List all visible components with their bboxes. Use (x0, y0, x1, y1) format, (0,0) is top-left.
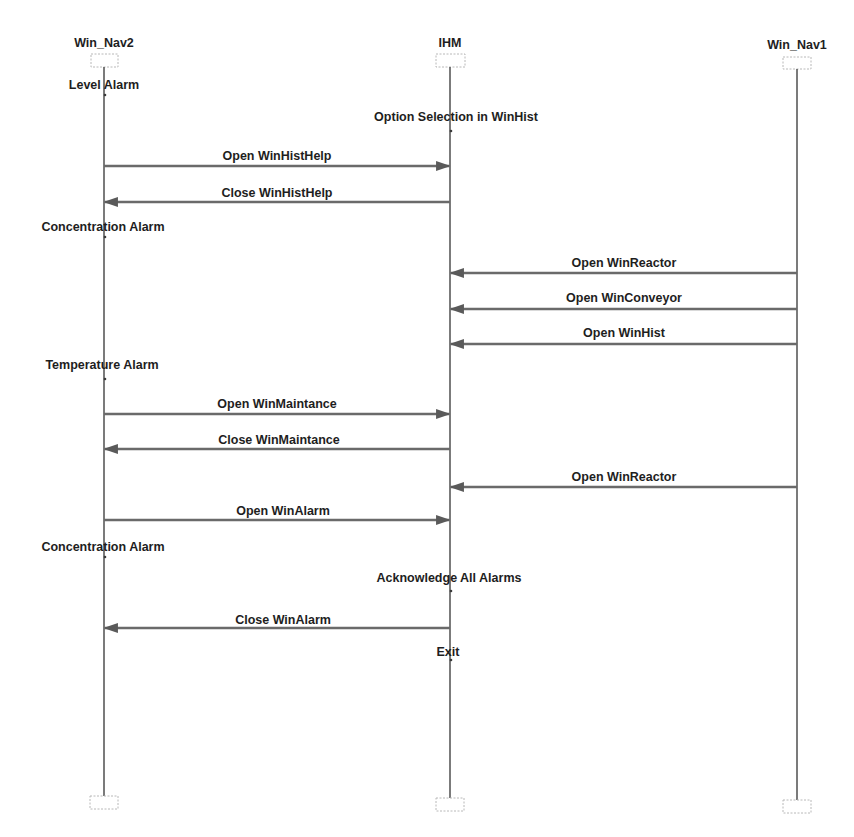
message-label: Open WinHistHelp (223, 149, 332, 163)
message-open-winhist: Open WinHist (451, 326, 797, 344)
message-close-winalarm: Close WinAlarm (105, 613, 450, 628)
lifeline-head-box (783, 57, 811, 69)
lifeline-tail-box (436, 798, 464, 811)
lifeline-tail-box (90, 796, 118, 809)
state-label: Temperature Alarm (45, 358, 158, 372)
state-label: Concentration Alarm (41, 540, 164, 554)
message-open-winreactor-1: Open WinReactor (451, 256, 797, 273)
message-label: Open WinReactor (572, 256, 677, 270)
state-marker (104, 556, 107, 559)
sequence-diagram: Win_Nav2 IHM Win_Nav1 Level Alarm Option… (0, 0, 854, 837)
state-temperature-alarm: Temperature Alarm (45, 358, 158, 380)
lifeline-title-ihm: IHM (439, 36, 462, 50)
message-open-winmaintance: Open WinMaintance (104, 397, 449, 414)
message-label: Open WinConveyor (566, 291, 682, 305)
lifeline-tail-box (783, 800, 811, 813)
state-marker (450, 659, 453, 662)
message-open-winconveyor: Open WinConveyor (451, 291, 797, 309)
lifeline-head-box (91, 54, 118, 67)
lifeline-head-box (436, 54, 465, 67)
lifeline-title-win-nav2: Win_Nav2 (74, 36, 134, 50)
message-label: Close WinHistHelp (221, 186, 332, 200)
lifeline-title-win-nav1: Win_Nav1 (767, 38, 827, 52)
state-label: Acknowledge All Alarms (377, 571, 522, 585)
message-label: Open WinMaintance (217, 397, 336, 411)
lifeline-ihm: IHM (436, 36, 465, 811)
state-marker (450, 590, 453, 593)
message-open-winalarm: Open WinAlarm (104, 504, 449, 520)
message-label: Close WinAlarm (235, 613, 331, 627)
state-marker (104, 94, 107, 97)
message-label: Open WinAlarm (236, 504, 330, 518)
message-close-winhisthelp: Close WinHistHelp (105, 186, 450, 202)
message-label: Open WinReactor (572, 470, 677, 484)
state-acknowledge-all-alarms: Acknowledge All Alarms (377, 571, 522, 592)
state-label: Concentration Alarm (41, 220, 164, 234)
state-label: Option Selection in WinHist (374, 110, 539, 124)
state-marker (450, 130, 453, 133)
message-close-winmaintance: Close WinMaintance (105, 433, 450, 449)
lifeline-win-nav2: Win_Nav2 (74, 36, 134, 809)
state-concentration-alarm-1: Concentration Alarm (41, 220, 164, 238)
message-open-winreactor-2: Open WinReactor (451, 470, 797, 487)
state-option-selection-in-winhist: Option Selection in WinHist (374, 110, 539, 132)
state-marker (104, 378, 107, 381)
state-exit: Exit (437, 645, 461, 661)
state-label: Level Alarm (69, 78, 139, 92)
message-label: Open WinHist (583, 326, 666, 340)
lifeline-win-nav1: Win_Nav1 (767, 38, 827, 813)
message-label: Close WinMaintance (218, 433, 339, 447)
state-concentration-alarm-2: Concentration Alarm (41, 540, 164, 558)
state-label: Exit (437, 645, 461, 659)
message-open-winhisthelp: Open WinHistHelp (104, 149, 449, 166)
state-marker (104, 236, 107, 239)
